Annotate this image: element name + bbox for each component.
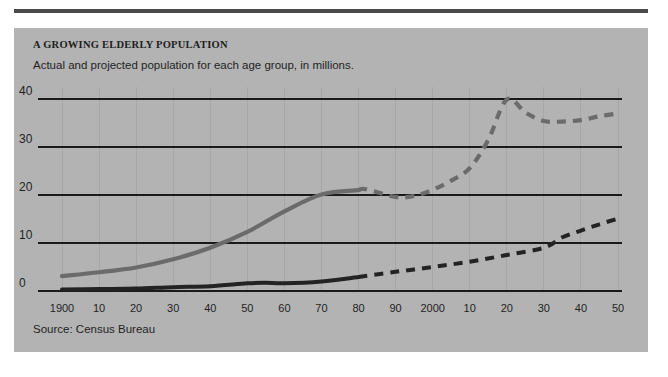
y-axis-tick-label: 10 xyxy=(19,228,43,242)
y-axis-tick-label: 40 xyxy=(19,84,43,98)
y-axis-tick-label: 30 xyxy=(19,132,43,146)
series-line-projected xyxy=(359,99,618,198)
x-axis-tick-label: 10 xyxy=(464,302,476,314)
x-axis-tick-label: 30 xyxy=(167,302,179,314)
series-line-projected xyxy=(359,219,618,278)
x-axis-tick-label: 20 xyxy=(501,302,513,314)
top-divider-rule xyxy=(14,9,648,13)
x-axis-tick-label: 2000 xyxy=(420,302,444,314)
y-axis-tick-label: 20 xyxy=(19,180,43,194)
x-axis-tick-label: 90 xyxy=(389,302,401,314)
y-axis-tick-label: 0 xyxy=(19,276,43,290)
x-axis-tick-label: 40 xyxy=(575,302,587,314)
x-axis-tick-label: 80 xyxy=(352,302,364,314)
x-axis-tick-label: 30 xyxy=(538,302,550,314)
chart-panel: A GROWING ELDERLY POPULATION Actual and … xyxy=(14,28,648,352)
x-axis-tick-label: 50 xyxy=(241,302,253,314)
chart-source-note: Source: Census Bureau xyxy=(33,323,155,335)
plot-area xyxy=(14,28,648,352)
x-axis-tick-label: 10 xyxy=(93,302,105,314)
x-axis-tick-label: 50 xyxy=(612,302,624,314)
x-axis-tick-label: 20 xyxy=(130,302,142,314)
x-axis-tick-label: 60 xyxy=(278,302,290,314)
x-axis-tick-label: 1900 xyxy=(50,302,74,314)
chart-svg xyxy=(14,28,648,352)
x-axis-tick-label: 40 xyxy=(204,302,216,314)
x-axis-tick-label: 70 xyxy=(315,302,327,314)
